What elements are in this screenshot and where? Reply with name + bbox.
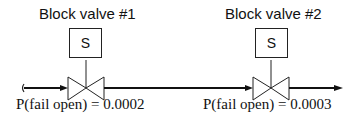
valve-1-solenoid: S — [69, 28, 102, 58]
valve-2-probability: P(fail open) = 0.0003 — [203, 96, 331, 113]
flow-arrow-icon — [334, 85, 343, 91]
pipe-break-icon — [23, 84, 25, 92]
flow-arrow-icon — [60, 85, 68, 91]
valve-1-title: Block valve #1 — [39, 5, 136, 22]
valve-1-symbol — [68, 60, 104, 100]
valve-2-solenoid: S — [255, 28, 288, 58]
flow-arrow-icon — [245, 85, 253, 91]
block-valve-diagram: Block valve #1 S P(fail open) = 0.0002 B… — [0, 0, 357, 128]
valve-2-title: Block valve #2 — [225, 5, 322, 22]
valve-2-symbol — [253, 60, 289, 100]
valve-1-probability: P(fail open) = 0.0002 — [16, 96, 144, 113]
